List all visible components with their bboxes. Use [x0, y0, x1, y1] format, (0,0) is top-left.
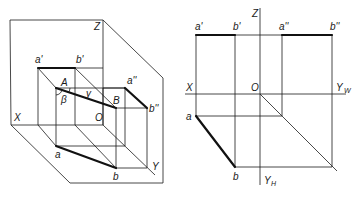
label-yw-sub: W	[344, 87, 352, 94]
h-plane	[11, 125, 163, 183]
label-x: X	[185, 82, 193, 93]
label-yh-sub: H	[271, 180, 277, 187]
label-B: B	[113, 95, 120, 106]
label-b-prime: b'	[233, 21, 242, 32]
proj-line	[38, 125, 56, 146]
label-z: Z	[251, 8, 259, 19]
label-o: O	[95, 112, 103, 123]
diagonal-45	[260, 94, 337, 171]
label-A: A	[60, 77, 68, 88]
label-x: X	[13, 112, 21, 123]
label-gamma: γ	[86, 88, 92, 99]
segment-ab	[56, 146, 116, 168]
label-b-dprime: b''	[330, 21, 340, 32]
label-a: a	[186, 111, 192, 122]
right-orthographic-figure: Z X O Y W Y H a' b' a'' b'' a b	[185, 8, 352, 187]
label-b-prime: b'	[76, 54, 85, 65]
segment-a2b2	[125, 88, 147, 108]
label-b-dprime: b''	[149, 103, 159, 114]
label-a-prime: a'	[35, 54, 44, 65]
angle-arc-gamma	[69, 88, 70, 92]
label-b: b	[113, 171, 119, 182]
label-z: Z	[93, 21, 101, 32]
label-a-prime: a'	[195, 21, 204, 32]
label-y: Y	[152, 161, 160, 172]
label-beta: β	[60, 94, 67, 105]
projection-diagram: Z X O Y a' b' A B a'' b'' β γ a b Z X	[0, 0, 352, 197]
label-o: O	[251, 82, 259, 93]
proj-line	[38, 68, 56, 88]
segment-ab	[196, 116, 235, 167]
label-a-dprime: a''	[127, 75, 137, 86]
label-b: b	[233, 171, 239, 182]
left-axonometric-figure: Z X O Y a' b' A B a'' b'' β γ a b	[10, 20, 163, 183]
label-yw: Y	[336, 82, 344, 93]
label-a: a	[55, 149, 61, 160]
v-plane	[10, 20, 103, 125]
label-a-dprime: a''	[279, 21, 289, 32]
w-plane	[103, 20, 163, 183]
